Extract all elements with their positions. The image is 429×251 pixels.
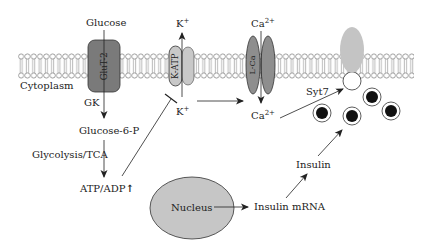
diagram-canvas	[0, 0, 429, 251]
katp-label: K-ATP	[171, 49, 180, 83]
glut2-label: GluT-2	[100, 46, 109, 86]
k-out-charge: +	[183, 17, 189, 25]
syt7-label: Syt7	[306, 87, 329, 97]
docked-vesicle	[343, 72, 361, 90]
syt7-protein	[340, 27, 364, 73]
ca-in-charge: 2+	[265, 109, 275, 117]
ca-out-text: Ca	[251, 18, 265, 29]
k-out-label: K+	[176, 19, 189, 29]
atp-adp-label: ATP/ADP↑	[80, 184, 134, 194]
ca-out-charge: 2+	[265, 17, 275, 25]
k-in-charge: +	[183, 105, 189, 113]
gk-label: GK	[84, 98, 99, 108]
insulin-granule	[343, 107, 361, 125]
katp-channel-right	[182, 47, 194, 85]
inhibition-bar	[165, 94, 177, 103]
glycolysis-label: Glycolysis/TCA	[32, 150, 108, 160]
insulin-granule	[313, 104, 331, 122]
insulin-label: Insulin	[296, 160, 331, 170]
insulin-secretion-diagram: Glucose GluT-2 Cytoplasm GK Glucose-6-P …	[0, 0, 429, 251]
nucleus-label: Nucleus	[171, 203, 212, 213]
atp-adp-text: ATP/ADP	[80, 183, 125, 194]
glucose6p-label: Glucose-6-P	[79, 126, 139, 136]
insulin-granule	[382, 102, 400, 120]
lca-channel-right	[261, 36, 275, 94]
increase-arrow-icon: ↑	[125, 183, 133, 194]
translation-arrow	[286, 174, 307, 198]
cytoplasm-label: Cytoplasm	[20, 81, 74, 91]
ca-in-label: Ca2+	[251, 111, 275, 121]
lca-label: L-Ca	[249, 48, 257, 82]
ca-in-text: Ca	[251, 110, 265, 121]
atp-inhibition-line	[122, 99, 171, 176]
glucose-label: Glucose	[86, 18, 126, 28]
packaging-arrow	[318, 130, 342, 156]
insulin-granule	[363, 88, 381, 106]
k-in-label: K+	[176, 107, 189, 117]
insulin-mrna-label: Insulin mRNA	[254, 202, 325, 212]
ca-out-label: Ca2+	[251, 19, 275, 29]
